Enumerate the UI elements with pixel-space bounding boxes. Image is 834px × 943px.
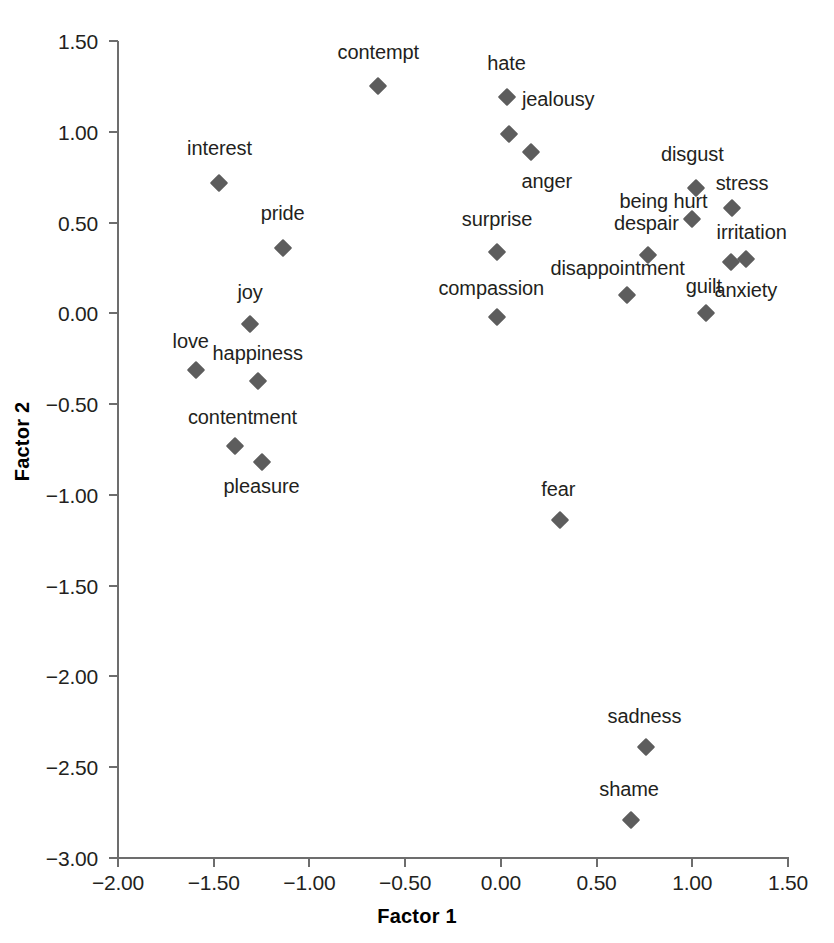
data-point-marker[interactable] [252,453,270,471]
data-point-label: guilt [686,276,722,296]
data-point-marker[interactable] [499,124,517,142]
data-point-label: shame [599,779,659,799]
data-point-label: being hurt [620,191,708,211]
data-point-marker[interactable] [369,77,387,95]
x-axis-tick [117,858,119,867]
cut-off-caption [0,934,834,943]
y-axis-tick-label: −0.50 [46,394,98,415]
data-point-label: surprise [462,209,532,229]
data-point-marker[interactable] [551,511,569,529]
data-point-marker[interactable] [622,811,640,829]
x-axis-tick-label: 1.50 [768,872,808,893]
data-point-label: contempt [338,42,419,62]
data-point-label: stress [716,173,769,193]
x-axis-tick-label: −2.00 [92,872,144,893]
data-point-marker[interactable] [187,360,205,378]
y-axis-tick [109,494,118,496]
data-point-label: anger [521,171,572,191]
x-axis-title: Factor 1 [0,905,834,928]
x-axis-tick-label: 0.00 [481,872,521,893]
y-axis-tick-label: −3.00 [46,848,98,869]
data-point-label: sadness [608,706,682,726]
data-point-marker[interactable] [488,308,506,326]
x-axis-line [117,857,789,859]
data-point-label: disappointment [551,258,685,278]
data-point-label: pride [261,203,305,223]
y-axis-tick [109,403,118,405]
x-axis-tick [596,858,598,867]
data-point-label: hate [487,53,526,73]
data-point-marker[interactable] [683,210,701,228]
data-point-marker[interactable] [249,371,267,389]
y-axis-tick [109,766,118,768]
x-axis-tick-label: 0.50 [577,872,617,893]
scatter-plot-figure: 1.501.000.500.00−0.50−1.00−1.50−2.00−2.5… [0,0,834,943]
y-axis-tick-label: −1.50 [46,576,98,597]
y-axis-tick-label: 0.00 [58,303,98,324]
x-axis-tick [500,858,502,867]
y-axis-tick [109,585,118,587]
y-axis-tick-label: 1.00 [58,122,98,143]
data-point-label: despair [614,213,679,233]
x-axis-tick-label: −1.00 [283,872,335,893]
y-axis-tick [109,131,118,133]
x-axis-tick [213,858,215,867]
data-point-marker[interactable] [488,242,506,260]
y-axis-tick [109,40,118,42]
x-axis-tick [308,858,310,867]
data-point-marker[interactable] [618,286,636,304]
data-point-label: irritation [717,222,787,242]
data-point-marker[interactable] [696,304,714,322]
y-axis-tick-label: 1.50 [58,31,98,52]
data-point-label: love [173,331,209,351]
data-point-marker[interactable] [210,173,228,191]
data-point-label: interest [187,138,252,158]
x-axis-tick-label: −0.50 [379,872,431,893]
data-point-label: jealousy [522,89,595,109]
data-point-label: compassion [438,278,544,298]
data-point-label: fear [541,479,575,499]
data-point-label: anxiety [715,280,778,300]
y-axis-title: Factor 2 [11,362,34,522]
data-point-marker[interactable] [241,315,259,333]
data-point-marker[interactable] [522,143,540,161]
data-point-marker[interactable] [273,239,291,257]
data-point-label: contentment [188,407,297,427]
y-axis-tick [109,312,118,314]
y-axis-tick-label: −1.00 [46,485,98,506]
x-axis-tick-label: −1.50 [188,872,240,893]
data-point-marker[interactable] [226,437,244,455]
y-axis-line [117,41,119,859]
x-axis-tick [787,858,789,867]
x-axis-tick-label: 1.00 [672,872,712,893]
y-axis-tick-label: 0.50 [58,213,98,234]
data-point-label: happiness [213,343,303,363]
data-point-marker[interactable] [737,250,755,268]
data-point-marker[interactable] [497,88,515,106]
data-point-marker[interactable] [721,253,739,271]
y-axis-tick-label: −2.50 [46,757,98,778]
data-point-marker[interactable] [723,199,741,217]
y-axis-tick [109,675,118,677]
x-axis-tick [404,858,406,867]
y-axis-tick-label: −2.00 [46,666,98,687]
data-point-label: pleasure [224,476,300,496]
data-point-label: disgust [661,144,724,164]
y-axis-tick [109,222,118,224]
data-point-label: joy [237,282,262,302]
data-point-marker[interactable] [637,738,655,756]
x-axis-tick [691,858,693,867]
